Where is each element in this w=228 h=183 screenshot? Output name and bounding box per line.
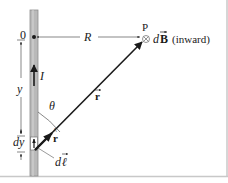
field-b-label: B [160, 32, 168, 46]
y-label: y [16, 82, 23, 96]
dl-l-label: ℓ [62, 155, 67, 169]
wire [30, 10, 38, 176]
r-vector-label: r [95, 90, 100, 102]
dl-leader [38, 148, 54, 158]
dl-d-label: d [55, 155, 62, 169]
biot-savart-diagram: 0 R P d B (inward) I y θ r r ^ dy d ℓ [0, 0, 228, 183]
point-label: P [142, 21, 148, 33]
theta-label: θ [49, 99, 55, 113]
field-note-label: (inward) [172, 33, 210, 46]
current-label: I [39, 69, 45, 83]
origin-label: 0 [20, 28, 26, 42]
dy-d-label: dy [13, 135, 25, 149]
field-d-label: d [153, 32, 160, 46]
distance-label: R [83, 30, 92, 44]
origin-dot [32, 35, 36, 39]
r-hat-caret: ^ [53, 127, 57, 136]
